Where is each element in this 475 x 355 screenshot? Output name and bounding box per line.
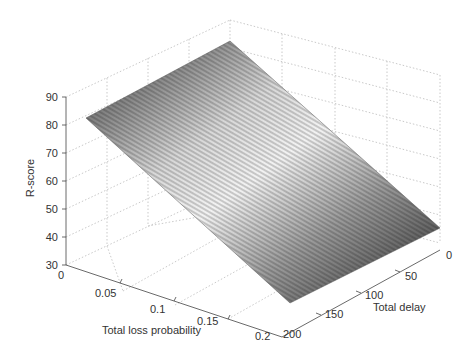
surface-chart: 90 80 70 60 50 40 30 0 0.05 0.1 0.15 0.2… xyxy=(0,0,475,355)
svg-text:0.2: 0.2 xyxy=(255,330,270,342)
svg-text:50: 50 xyxy=(46,203,58,215)
svg-text:150: 150 xyxy=(325,308,343,320)
svg-text:50: 50 xyxy=(405,270,417,282)
svg-text:40: 40 xyxy=(46,231,58,243)
z-axis-label: R-score xyxy=(24,159,36,198)
svg-text:60: 60 xyxy=(46,175,58,187)
svg-text:80: 80 xyxy=(46,119,58,131)
svg-text:100: 100 xyxy=(365,289,383,301)
svg-text:70: 70 xyxy=(46,147,58,159)
svg-text:0.1: 0.1 xyxy=(150,303,165,315)
svg-text:30: 30 xyxy=(46,259,58,271)
svg-text:200: 200 xyxy=(283,328,301,340)
y-axis-label: Total delay xyxy=(373,301,426,313)
svg-text:0.05: 0.05 xyxy=(95,287,116,299)
z-tick-labels: 90 80 70 60 50 40 30 xyxy=(46,91,58,271)
surface xyxy=(86,41,440,303)
svg-text:0: 0 xyxy=(446,249,452,261)
x-axis-label: Total loss probability xyxy=(102,324,202,336)
svg-text:0: 0 xyxy=(58,269,64,281)
svg-text:90: 90 xyxy=(46,91,58,103)
